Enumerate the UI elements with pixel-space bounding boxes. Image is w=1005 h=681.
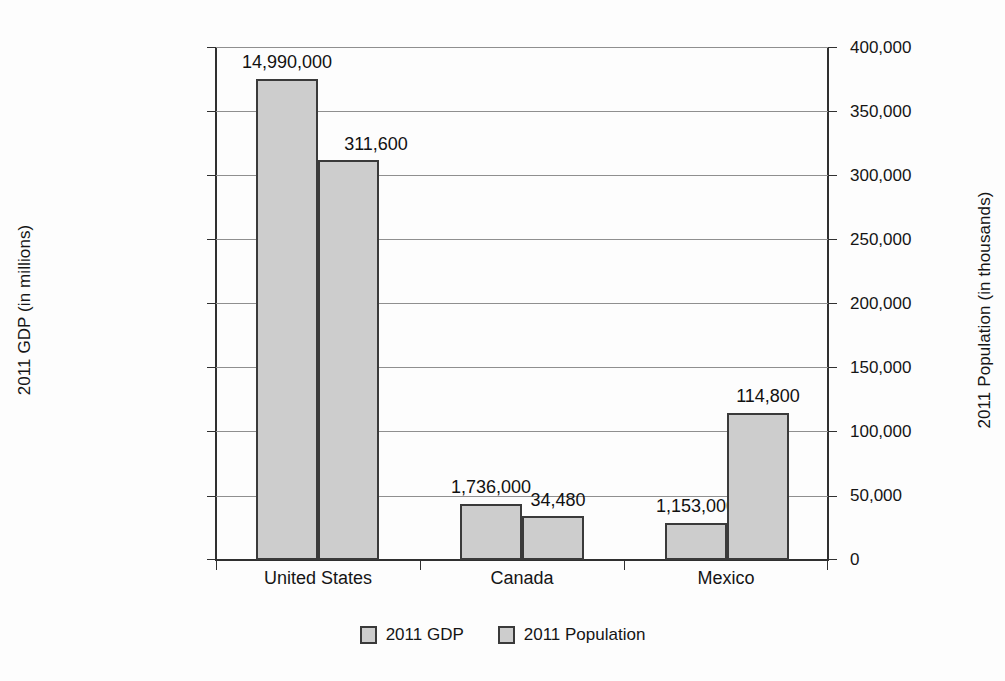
bar-chart: 2011 GDP (in millions) 2011 Population (… <box>0 0 1005 681</box>
bar-canada-population[interactable] <box>522 516 584 560</box>
legend: 2011 GDP 2011 Population <box>0 625 1005 645</box>
bar-value-label: 34,480 <box>498 491 618 509</box>
x-axis-category-mexico: Mexico <box>624 568 828 589</box>
y-tick-label-right: 100,000 <box>850 423 1005 440</box>
x-axis-category-united-states: United States <box>216 568 420 589</box>
y-tick-right <box>828 47 837 48</box>
y-tick-left <box>207 111 216 112</box>
y-tick-right <box>828 303 837 304</box>
y-tick-right <box>828 367 837 368</box>
bar-value-label: 311,600 <box>311 135 441 153</box>
legend-item-population[interactable]: 2011 Population <box>498 625 646 645</box>
y-tick-left <box>207 47 216 48</box>
y-tick-label-right: 50,000 <box>850 487 1005 504</box>
plot-area: 14,990,000 311,600 1,736,000 34,480 1,15… <box>216 47 828 560</box>
legend-item-gdp[interactable]: 2011 GDP <box>360 625 464 645</box>
y-tick-left <box>207 559 216 560</box>
gridline <box>216 47 828 48</box>
y-tick-label-right: 300,000 <box>850 167 1005 184</box>
bar-mexico-gdp[interactable] <box>665 523 727 560</box>
y-tick-label-right: 0 <box>850 551 1005 568</box>
y-tick-label-right: 150,000 <box>850 359 1005 376</box>
y-tick-right <box>828 559 837 560</box>
y-tick-right <box>828 175 837 176</box>
bar-united-states-gdp[interactable] <box>256 79 318 560</box>
y-tick-label-right: 350,000 <box>850 103 1005 120</box>
bar-value-label: 114,800 <box>703 387 833 405</box>
y-tick-right <box>828 496 837 497</box>
y-tick-right <box>828 239 837 240</box>
legend-swatch-icon <box>360 626 377 644</box>
y-tick-left <box>207 175 216 176</box>
y-tick-left <box>207 496 216 497</box>
y-tick-label-right: 200,000 <box>850 295 1005 312</box>
bar-value-label: 14,990,000 <box>208 53 366 71</box>
legend-swatch-icon <box>498 626 515 644</box>
legend-label: 2011 GDP <box>386 625 464 645</box>
y-tick-label-right: 250,000 <box>850 231 1005 248</box>
legend-label: 2011 Population <box>524 625 646 645</box>
y-tick-right <box>828 431 837 432</box>
x-axis-category-canada: Canada <box>420 568 624 589</box>
bar-canada-gdp[interactable] <box>460 504 522 560</box>
y-tick-left <box>207 367 216 368</box>
y-tick-label-right: 400,000 <box>850 39 1005 56</box>
y-tick-left <box>207 303 216 304</box>
bar-mexico-population[interactable] <box>727 413 789 560</box>
y-tick-right <box>828 111 837 112</box>
bar-united-states-population[interactable] <box>318 160 379 560</box>
y-tick-left <box>207 239 216 240</box>
y-axis-left-title: 2011 GDP (in millions) <box>15 160 35 460</box>
y-tick-left <box>207 431 216 432</box>
